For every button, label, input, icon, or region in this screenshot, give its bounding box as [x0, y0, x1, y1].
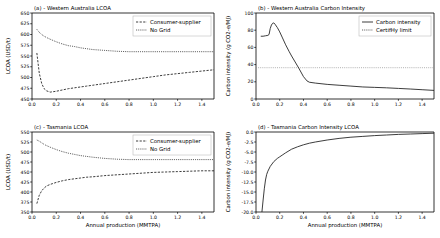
- panel-b-western-australia-carbon-intensity: (b) - Western Australia Carbon Intensity…: [220, 0, 440, 119]
- y-tick-label: -5.0: [244, 150, 253, 155]
- x-tick-label: 0.8: [347, 102, 354, 107]
- x-tick-label: 1.0: [371, 102, 378, 107]
- series-line: [262, 133, 434, 212]
- figure-canvas: (a) - Western Australia LCOA450475500525…: [0, 0, 440, 238]
- y-tick-label: 525: [21, 64, 30, 69]
- x-tick-label: 1.4: [418, 215, 425, 220]
- y-tick-label: 650: [21, 11, 30, 16]
- y-tick-label: 40: [248, 62, 254, 67]
- y-tick-label: 375: [21, 200, 30, 205]
- x-tick-label: 0.2: [276, 102, 283, 107]
- x-tick-label: 0.8: [347, 215, 354, 220]
- x-tick-label: 1.2: [174, 215, 181, 220]
- x-tick-label: 0.0: [252, 102, 259, 107]
- x-tick-label: 1.0: [150, 215, 157, 220]
- panel-title: (d) - Tasmania Carbon Intensity LCOA: [258, 124, 359, 131]
- x-tick-label: 0.6: [324, 215, 331, 220]
- x-tick-label: 1.4: [198, 102, 205, 107]
- y-tick-label: -12.5: [242, 180, 254, 185]
- x-tick-label: 0.6: [101, 215, 108, 220]
- y-tick-label: 475: [21, 160, 30, 165]
- y-tick-label: 0.0: [246, 130, 253, 135]
- y-tick-label: 20: [248, 79, 254, 84]
- x-axis-label: Annual production (MMTPA): [86, 222, 161, 229]
- y-tick-label: 625: [21, 21, 30, 26]
- x-tick-label: 0.4: [77, 215, 84, 220]
- y-axis-label: LCOA (USD/t): [5, 38, 11, 74]
- legend-label: Consumer-supplier: [150, 19, 201, 26]
- panel-a-plot: (a) - Western Australia LCOA450475500525…: [0, 0, 220, 119]
- panel-b-plot: (b) - Western Australia Carbon Intensity…: [220, 0, 440, 119]
- x-tick-label: 0.4: [300, 102, 307, 107]
- legend-label: Consumer-supplier: [150, 138, 201, 145]
- panel-d-tasmania-carbon-intensity: (d) - Tasmania Carbon Intensity LCOA-20.…: [220, 119, 440, 238]
- x-tick-label: 1.4: [198, 215, 205, 220]
- y-tick-label: -7.5: [244, 160, 253, 165]
- y-tick-label: 100: [245, 11, 254, 16]
- y-tick-label: 60: [248, 45, 254, 50]
- series-line: [37, 171, 214, 204]
- y-tick-label: -2.5: [244, 140, 253, 145]
- y-tick-label: 525: [21, 140, 30, 145]
- x-tick-label: 0.4: [300, 215, 307, 220]
- x-tick-label: 0.8: [125, 215, 132, 220]
- y-axis-label: LCOA (USD/t): [5, 154, 11, 190]
- x-axis-label: Annual production (MMTPA): [308, 222, 383, 229]
- y-tick-label: 600: [21, 32, 30, 37]
- panel-c-plot: (c) - Tasmania LCOA350375400425450475500…: [0, 119, 220, 238]
- y-tick-label: 450: [21, 170, 30, 175]
- y-tick-label: 425: [21, 180, 30, 185]
- y-tick-label: 550: [21, 130, 30, 135]
- x-tick-label: 0.0: [28, 215, 35, 220]
- legend-label: No Grid: [150, 27, 170, 33]
- x-tick-label: 1.2: [174, 102, 181, 107]
- panel-a-western-australia-lcoa: (a) - Western Australia LCOA450475500525…: [0, 0, 220, 119]
- x-tick-label: 0.0: [252, 215, 259, 220]
- panel-title: (b) - Western Australia Carbon Intensity: [258, 5, 366, 12]
- panel-c-tasmania-lcoa: (c) - Tasmania LCOA350375400425450475500…: [0, 119, 220, 238]
- panel-title: (a) - Western Australia LCOA: [34, 5, 111, 11]
- x-tick-label: 0.4: [77, 102, 84, 107]
- y-tick-label: -10.0: [242, 170, 254, 175]
- series-line: [37, 53, 214, 92]
- x-tick-label: 0.2: [53, 102, 60, 107]
- y-tick-label: -17.5: [242, 200, 254, 205]
- x-tick-label: 0.6: [324, 102, 331, 107]
- legend-label: CertifHy limit: [376, 27, 412, 34]
- x-tick-label: 0.0: [28, 102, 35, 107]
- y-tick-label: 575: [21, 43, 30, 48]
- y-tick-label: 550: [21, 54, 30, 59]
- y-tick-label: 475: [21, 86, 30, 91]
- y-axis-label: Carbon intensity (g CO2-e/MJ): [225, 132, 232, 212]
- panel-title: (c) - Tasmania LCOA: [34, 124, 88, 130]
- legend-label: Carbon intensity: [376, 19, 421, 26]
- x-tick-label: 1.2: [395, 215, 402, 220]
- y-tick-label: 500: [21, 150, 30, 155]
- x-tick-label: 1.0: [371, 215, 378, 220]
- x-tick-label: 1.0: [150, 102, 157, 107]
- x-tick-label: 0.8: [125, 102, 132, 107]
- x-tick-label: 1.4: [418, 102, 425, 107]
- y-tick-label: -15.0: [242, 190, 254, 195]
- x-tick-label: 0.2: [276, 215, 283, 220]
- y-axis-label: Carbon intensity (g CO2-e/MJ): [225, 16, 232, 96]
- panel-d-plot: (d) - Tasmania Carbon Intensity LCOA-20.…: [220, 119, 440, 238]
- y-tick-label: 80: [248, 28, 254, 33]
- legend-label: No Grid: [150, 146, 170, 152]
- x-tick-label: 0.6: [101, 102, 108, 107]
- x-tick-label: 0.2: [53, 215, 60, 220]
- y-tick-label: 400: [21, 190, 30, 195]
- y-tick-label: 500: [21, 75, 30, 80]
- x-tick-label: 1.2: [395, 102, 402, 107]
